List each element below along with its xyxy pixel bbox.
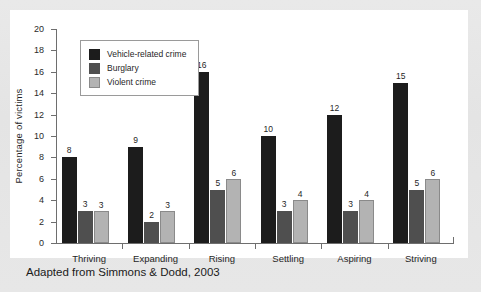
x-axis-separator	[388, 243, 389, 249]
x-axis-separator	[122, 243, 123, 249]
x-axis-category-label: Settling	[272, 253, 304, 264]
y-axis-line	[56, 29, 57, 243]
y-axis-tick-label: 2	[39, 217, 44, 227]
bar: 3	[78, 211, 93, 243]
y-axis-tick: 6	[51, 179, 56, 180]
y-axis-tick-label: 12	[34, 110, 44, 120]
y-axis-tick-label: 16	[34, 67, 44, 77]
y-axis-tick-label: 0	[39, 238, 44, 248]
bar: 9	[128, 147, 143, 243]
x-axis-separator	[255, 243, 256, 249]
y-axis-tick-label: 20	[34, 24, 44, 34]
bar-value-label: 10	[263, 124, 272, 134]
x-axis-category-label: Thriving	[72, 253, 106, 264]
legend-label: Violent crime	[107, 77, 156, 87]
bar-value-label: 4	[298, 189, 303, 199]
y-axis-tick-label: 6	[39, 174, 44, 184]
bar: 4	[293, 200, 308, 243]
bar-value-label: 6	[231, 168, 236, 178]
x-axis-end-cap	[56, 237, 57, 244]
legend-label: Vehicle-related crime	[107, 49, 186, 59]
bar-value-label: 12	[330, 103, 339, 113]
figure-caption: Adapted from Simmons & Dodd, 2003	[26, 266, 220, 278]
y-axis-tick: 12	[51, 115, 56, 116]
bar-value-label: 8	[67, 145, 72, 155]
y-axis-tick-label: 10	[34, 131, 44, 141]
bar-value-label: 2	[149, 210, 154, 220]
bar-value-label: 5	[414, 178, 419, 188]
x-axis-category-label: Aspiring	[337, 253, 371, 264]
legend-label: Burglary	[107, 63, 139, 73]
bar: 2	[144, 222, 159, 243]
bar: 6	[226, 179, 241, 243]
bar-value-label: 9	[133, 135, 138, 145]
y-axis-tick: 4	[51, 200, 56, 201]
x-axis-category-label: Rising	[209, 253, 235, 264]
bar: 3	[94, 211, 109, 243]
y-axis-title: Percentage of victims	[13, 88, 24, 183]
bar-value-label: 4	[364, 189, 369, 199]
legend-swatch	[89, 63, 100, 74]
bar: 16	[194, 72, 209, 243]
legend-item: Burglary	[89, 61, 186, 75]
y-axis-tick-label: 4	[39, 195, 44, 205]
x-axis-end-cap	[453, 237, 454, 244]
bar-value-label: 3	[165, 200, 170, 210]
x-axis-separator	[321, 243, 322, 249]
bar: 8	[62, 157, 77, 243]
bar: 12	[327, 115, 342, 243]
y-axis-tick: 16	[51, 72, 56, 73]
y-axis-tick-label: 14	[34, 88, 44, 98]
y-axis-tick: 14	[51, 93, 56, 94]
bar-value-label: 5	[215, 178, 220, 188]
bar: 5	[210, 190, 225, 244]
x-axis-category-label: Expanding	[133, 253, 178, 264]
legend-item: Vehicle-related crime	[89, 47, 186, 61]
bar-value-label: 3	[282, 199, 287, 209]
x-axis-separator	[189, 243, 190, 249]
bar-value-label: 3	[348, 199, 353, 209]
y-axis-tick-label: 18	[34, 45, 44, 55]
x-axis-category-label: Striving	[405, 253, 437, 264]
plot-area: 02468101214161820 Percentage of victims …	[56, 29, 454, 253]
legend-swatch	[89, 77, 100, 88]
bar: 3	[277, 211, 292, 243]
y-axis-tick: 8	[51, 157, 56, 158]
y-axis-tick-label: 8	[39, 152, 44, 162]
y-axis-tick: 10	[51, 136, 56, 137]
bar: 5	[409, 190, 424, 244]
bar: 3	[343, 211, 358, 243]
bar-value-label: 6	[430, 168, 435, 178]
bar-value-label: 3	[83, 199, 88, 209]
chart-legend: Vehicle-related crimeBurglaryViolent cri…	[80, 40, 199, 96]
bar: 4	[359, 200, 374, 243]
bar: 3	[160, 211, 175, 243]
bar-value-label: 3	[99, 200, 104, 210]
y-axis-tick: 18	[51, 50, 56, 51]
y-axis-tick: 2	[51, 222, 56, 223]
bar-value-label: 15	[396, 71, 405, 81]
legend-item: Violent crime	[89, 75, 186, 89]
bar: 15	[393, 83, 408, 244]
bar: 10	[261, 136, 276, 243]
legend-swatch	[89, 49, 100, 60]
bar: 6	[425, 179, 440, 243]
figure-panel: 02468101214161820 Percentage of victims …	[10, 10, 468, 258]
y-axis-tick: 20	[51, 29, 56, 30]
